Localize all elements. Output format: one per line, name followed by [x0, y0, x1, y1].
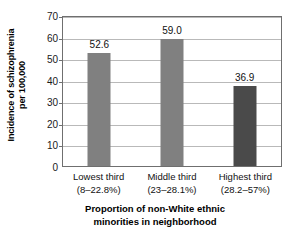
y-axis-title-line2: per 100,000	[17, 61, 27, 109]
y-axis-tick-label: 0	[52, 162, 58, 173]
category-range: (28.2–57%)	[209, 183, 282, 196]
bar[interactable]	[160, 39, 183, 166]
y-axis-tick-label: 30	[47, 97, 58, 108]
x-axis-title-line2: minorities in neighborhood	[30, 215, 280, 228]
x-axis-title: Proportion of non-White ethnic minoritie…	[30, 202, 280, 228]
category-range: (23–28.1%)	[135, 183, 208, 196]
y-axis-tick-label: 70	[47, 11, 58, 22]
x-axis-category-label: Lowest third(8–22.8%)	[62, 170, 135, 196]
category-name: Middle third	[147, 171, 196, 182]
x-axis-title-line1: Proportion of non-White ethnic	[30, 202, 280, 215]
y-axis-tick-label: 40	[47, 75, 58, 86]
y-axis-title-line1: Incidence of schizophrenia	[6, 29, 16, 142]
bar-slot: 52.6	[63, 17, 136, 166]
y-axis-title: Incidence of schizophrenia per 100,000	[0, 0, 34, 170]
bar-series: 52.659.036.9	[63, 17, 281, 166]
bar-slot: 59.0	[136, 17, 209, 166]
bar-value-label: 36.9	[235, 72, 254, 83]
bar-value-label: 52.6	[90, 39, 109, 50]
x-axis-category-labels: Lowest third(8–22.8%)Middle third(23–28.…	[62, 170, 282, 200]
y-axis-tick-label: 50	[47, 54, 58, 65]
y-axis-tick-label: 60	[47, 32, 58, 43]
bar-value-label: 59.0	[162, 25, 181, 36]
y-axis-tick-label: 20	[47, 118, 58, 129]
x-axis-category-label: Highest third(28.2–57%)	[209, 170, 282, 196]
x-axis-category-label: Middle third(23–28.1%)	[135, 170, 208, 196]
plot-area: 52.659.036.9	[62, 16, 282, 167]
bar-slot: 36.9	[208, 17, 281, 166]
category-name: Lowest third	[73, 171, 124, 182]
bar[interactable]	[88, 53, 111, 166]
chart-figure: Incidence of schizophrenia per 100,000 0…	[0, 0, 299, 232]
y-axis-tick-labels: 010203040506070	[34, 0, 60, 175]
category-name: Highest third	[219, 171, 272, 182]
bar[interactable]	[233, 86, 256, 166]
y-axis-tick-label: 10	[47, 140, 58, 151]
category-range: (8–22.8%)	[62, 183, 135, 196]
